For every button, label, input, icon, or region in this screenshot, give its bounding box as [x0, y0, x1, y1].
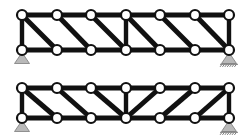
- truss-joint-node: [86, 83, 96, 93]
- truss-joint-node: [155, 10, 165, 20]
- truss-joint-node: [224, 45, 234, 55]
- truss-joint-node: [190, 83, 200, 93]
- truss-joint-node: [190, 45, 200, 55]
- truss-joint-node: [52, 83, 62, 93]
- truss-joint-node: [190, 113, 200, 123]
- truss-joint-node: [86, 45, 96, 55]
- truss-diagram-svg: [0, 0, 250, 139]
- truss-joint-node: [121, 83, 131, 93]
- truss-joint-node: [86, 113, 96, 123]
- truss-joint-node: [155, 45, 165, 55]
- truss-joint-node: [224, 10, 234, 20]
- truss-joint-node: [17, 83, 27, 93]
- truss-joint-node: [224, 113, 234, 123]
- truss-joint-node: [86, 10, 96, 20]
- truss-joint-node: [121, 45, 131, 55]
- truss-joint-node: [17, 10, 27, 20]
- truss-joint-node: [121, 10, 131, 20]
- truss-joint-node: [155, 83, 165, 93]
- truss-joint-node: [155, 113, 165, 123]
- truss-joint-node: [17, 45, 27, 55]
- truss-joint-node: [121, 113, 131, 123]
- truss-joint-node: [224, 83, 234, 93]
- truss-joint-node: [52, 10, 62, 20]
- diagram-canvas: [0, 0, 250, 139]
- truss-joint-node: [52, 113, 62, 123]
- truss-joint-node: [190, 10, 200, 20]
- truss-joint-node: [52, 45, 62, 55]
- truss-joint-node: [17, 113, 27, 123]
